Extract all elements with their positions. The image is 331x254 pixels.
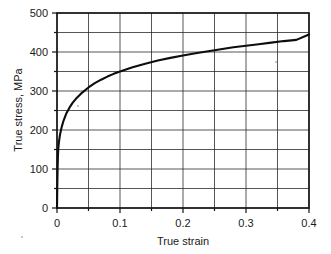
x-tick-label: 0.1	[112, 217, 127, 229]
y-axis-title: True stress, MPa	[12, 67, 24, 151]
x-tick-label: 0.2	[175, 217, 190, 229]
x-tick-label: 0	[54, 217, 60, 229]
y-tick-label: 400	[30, 46, 48, 58]
scan-speck	[21, 236, 23, 238]
y-tick-label: 100	[30, 163, 48, 175]
scan-speck	[77, 105, 79, 107]
true-stress-strain-chart: 0100200300400500 00.10.20.30.4 True stre…	[0, 0, 331, 254]
x-axis-title: True strain	[157, 235, 209, 247]
y-tick-label: 200	[30, 124, 48, 136]
y-tick-label: 0	[42, 202, 48, 214]
x-axis-tick-labels: 00.10.20.30.4	[54, 217, 317, 229]
y-axis-tick-labels: 0100200300400500	[30, 7, 48, 214]
scan-speck	[275, 61, 277, 63]
x-tick-label: 0.3	[238, 217, 253, 229]
y-tick-label: 500	[30, 7, 48, 19]
x-tick-label: 0.4	[301, 217, 316, 229]
chart-svg: 0100200300400500 00.10.20.30.4 True stre…	[0, 0, 331, 254]
y-tick-label: 300	[30, 85, 48, 97]
